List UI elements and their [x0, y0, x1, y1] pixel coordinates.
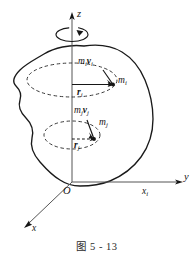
figure-page: z y xi x O ri mi [0, 0, 194, 266]
figure-caption: 图 5 - 13 [0, 238, 194, 253]
rotation-arrowhead-icon [77, 30, 84, 36]
origin-label: O [63, 185, 71, 196]
mj-label: mj [99, 117, 108, 128]
y-axis-label: y [183, 171, 189, 182]
physics-diagram: z y xi x O ri mi [0, 0, 194, 266]
mi-label: mi [118, 75, 127, 86]
ri-label: ri [77, 87, 83, 98]
mjvj-label: mjvj [74, 105, 89, 116]
rigid-body-outline [14, 45, 153, 186]
xi-axis-label: xi [141, 186, 148, 197]
z-axis-label: z [76, 8, 81, 19]
rj-label: rj [74, 140, 80, 151]
x-axis-label: x [31, 223, 37, 233]
mivi-label: mivi [78, 56, 93, 67]
